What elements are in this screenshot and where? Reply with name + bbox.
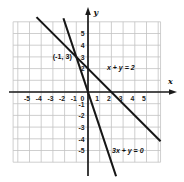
equation-label-1: 3x + y = 0 [112, 147, 144, 155]
x-axis-label: x [167, 76, 173, 86]
point-label: (-1, 3) [53, 52, 73, 61]
plot-background [0, 0, 184, 182]
y-tick-label: 3 [81, 54, 85, 61]
y-tick-label: -5 [78, 147, 84, 154]
y-tick-label: -3 [78, 124, 84, 131]
equation-label-0: x + y = 2 [106, 64, 135, 72]
y-tick-label: 4 [81, 42, 85, 49]
graph-figure: -5-4-3-2-10123455432-1-2-3-4-5xyx + y = … [0, 0, 184, 182]
y-tick-label: -4 [78, 136, 84, 143]
x-tick-label: -5 [24, 95, 30, 102]
x-tick-label: -4 [36, 95, 42, 102]
coordinate-plane: -5-4-3-2-10123455432-1-2-3-4-5xyx + y = … [0, 0, 184, 182]
y-tick-label: -2 [78, 112, 84, 119]
y-tick-label: -1 [78, 101, 84, 108]
x-tick-label: -2 [59, 95, 65, 102]
x-tick-label: 5 [142, 95, 146, 102]
x-tick-label: -3 [47, 95, 53, 102]
x-tick-label: -1 [71, 95, 77, 102]
y-tick-label: 5 [81, 30, 85, 37]
x-tick-label: 2 [107, 95, 111, 102]
x-tick-label: 4 [130, 95, 134, 102]
x-tick-label: 1 [95, 95, 99, 102]
